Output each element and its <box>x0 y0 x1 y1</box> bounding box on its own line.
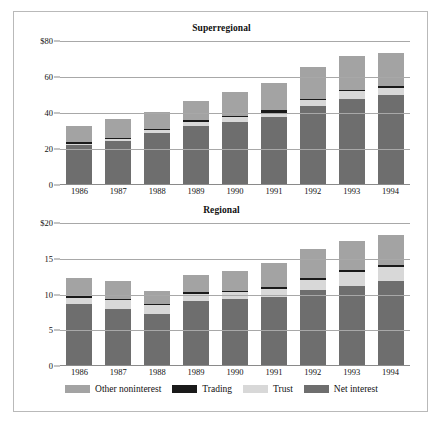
chart-legend: Other noninterestTradingTrustNet interes… <box>14 380 429 398</box>
bar-superregional-1992 <box>300 67 326 184</box>
bar-segment-regional-1993-other-noninterest <box>339 241 365 270</box>
gridline-superregional-40 <box>60 113 410 114</box>
plot-area-superregional: 0204060$80 <box>60 41 410 185</box>
legend-swatch-net <box>304 385 329 393</box>
bar-segment-superregional-1991-net-interest <box>261 117 287 184</box>
x-tick-label-regional-1987: 1987 <box>98 367 138 377</box>
bar-segment-superregional-1988-net-interest <box>144 133 170 184</box>
gridline-superregional-60 <box>60 77 410 78</box>
x-tick-label-regional-1989: 1989 <box>176 367 216 377</box>
x-tick-label-regional-1994: 1994 <box>371 367 411 377</box>
bar-regional-1988 <box>144 291 170 365</box>
bar-segment-regional-1987-other-noninterest <box>105 281 131 298</box>
x-tick-label-superregional-1994: 1994 <box>371 186 411 196</box>
bar-regional-1990 <box>222 271 248 365</box>
legend-item-net: Net interest <box>304 384 378 394</box>
x-tick-label-regional-1991: 1991 <box>254 367 294 377</box>
y-tick-label-superregional-40: 40 <box>45 108 61 118</box>
y-tick-label-superregional-60: 60 <box>45 72 61 82</box>
legend-swatch-trading <box>172 385 197 393</box>
bar-superregional-1991 <box>261 83 287 184</box>
chart-figure: Superregional 0204060$80 198619871988198… <box>13 11 428 412</box>
legend-label-net: Net interest <box>334 384 378 394</box>
bar-segment-superregional-1992-net-interest <box>300 106 326 184</box>
gridline-regional-5 <box>60 330 410 331</box>
bar-regional-1986 <box>66 278 92 365</box>
panel-title-superregional: Superregional <box>14 23 429 33</box>
bar-segment-regional-1987-net-interest <box>105 309 131 365</box>
bar-segment-regional-1990-other-noninterest <box>222 271 248 291</box>
panel-title-regional: Regional <box>14 205 429 215</box>
bar-segment-superregional-1987-other-noninterest <box>105 119 131 138</box>
bar-segment-regional-1988-other-noninterest <box>144 291 170 304</box>
bar-segment-regional-1990-trust <box>222 292 248 299</box>
legend-item-trust: Trust <box>243 384 293 394</box>
bar-segment-superregional-1988-other-noninterest <box>144 112 170 129</box>
gridline-superregional-20 <box>60 149 410 150</box>
legend-item-other: Other noninterest <box>65 384 161 394</box>
plot-area-regional: 051015$20 <box>60 223 410 366</box>
bar-segment-superregional-1992-other-noninterest <box>300 67 326 99</box>
bar-segment-superregional-1989-other-noninterest <box>183 101 209 120</box>
bar-segment-regional-1994-other-noninterest <box>378 235 404 265</box>
bar-regional-1993 <box>339 241 365 365</box>
x-tick-label-regional-1990: 1990 <box>215 367 255 377</box>
bar-superregional-1987 <box>105 119 131 184</box>
bar-segment-regional-1987-trust <box>105 300 131 309</box>
x-tick-label-superregional-1993: 1993 <box>332 186 372 196</box>
bar-segment-regional-1991-trust <box>261 289 287 298</box>
x-tick-label-regional-1993: 1993 <box>332 367 372 377</box>
bar-segment-superregional-1993-trust <box>339 91 365 99</box>
bar-segment-regional-1994-trust <box>378 267 404 281</box>
bar-regional-1992 <box>300 249 326 365</box>
x-tick-label-superregional-1987: 1987 <box>98 186 138 196</box>
gridline-superregional-80 <box>60 41 410 42</box>
bar-segment-superregional-1993-other-noninterest <box>339 56 365 89</box>
x-tick-label-regional-1986: 1986 <box>59 367 99 377</box>
x-tick-label-regional-1992: 1992 <box>293 367 333 377</box>
legend-label-trading: Trading <box>202 384 232 394</box>
x-tick-label-superregional-1988: 1988 <box>137 186 177 196</box>
bar-superregional-1990 <box>222 92 248 184</box>
bar-superregional-1993 <box>339 56 365 184</box>
bar-segment-regional-1989-net-interest <box>183 301 209 365</box>
gridline-regional-20 <box>60 223 410 224</box>
bar-segment-superregional-1990-net-interest <box>222 122 248 184</box>
gridline-regional-15 <box>60 259 410 260</box>
y-tick-label-regional-15: 15 <box>45 254 61 264</box>
legend-label-other: Other noninterest <box>95 384 161 394</box>
legend-swatch-trust <box>243 385 268 393</box>
bar-segment-regional-1992-other-noninterest <box>300 249 326 278</box>
bar-segment-superregional-1986-other-noninterest <box>66 126 92 143</box>
bar-regional-1994 <box>378 235 404 365</box>
bar-segment-regional-1990-net-interest <box>222 299 248 365</box>
y-tick-label-regional-10: 10 <box>45 290 61 300</box>
x-tick-label-superregional-1992: 1992 <box>293 186 333 196</box>
y-tick-label-superregional-20: 20 <box>45 144 61 154</box>
y-tick-label-superregional-80: $80 <box>40 36 60 46</box>
x-tick-label-superregional-1989: 1989 <box>176 186 216 196</box>
x-tick-label-superregional-1991: 1991 <box>254 186 294 196</box>
gridline-regional-10 <box>60 295 410 296</box>
bar-segment-superregional-1994-other-noninterest <box>378 53 404 86</box>
bar-segment-superregional-1991-other-noninterest <box>261 83 287 110</box>
bar-segment-regional-1988-net-interest <box>144 314 170 365</box>
bar-segment-regional-1991-other-noninterest <box>261 263 287 287</box>
x-tick-label-regional-1988: 1988 <box>137 367 177 377</box>
y-tick-label-regional-20: $20 <box>40 218 60 228</box>
panel-regional: Regional 051015$20 198619871988198919901… <box>14 198 429 383</box>
panel-superregional: Superregional 0204060$80 198619871988198… <box>14 12 429 209</box>
bar-segment-superregional-1987-net-interest <box>105 141 131 184</box>
x-axis-labels-regional: 198619871988198919901991199219931994 <box>60 367 410 381</box>
bar-segment-regional-1993-net-interest <box>339 286 365 365</box>
y-tick-label-regional-0: 0 <box>49 361 60 371</box>
bar-segment-superregional-1994-trust <box>378 88 404 95</box>
bar-segment-regional-1989-other-noninterest <box>183 275 209 292</box>
bar-segment-regional-1992-net-interest <box>300 290 326 365</box>
bar-segment-regional-1986-net-interest <box>66 304 92 365</box>
bar-segment-superregional-1989-net-interest <box>183 126 209 185</box>
bar-segment-regional-1988-trust <box>144 305 170 314</box>
bar-regional-1989 <box>183 275 209 365</box>
x-tick-label-superregional-1986: 1986 <box>59 186 99 196</box>
y-tick-label-superregional-0: 0 <box>49 180 60 190</box>
